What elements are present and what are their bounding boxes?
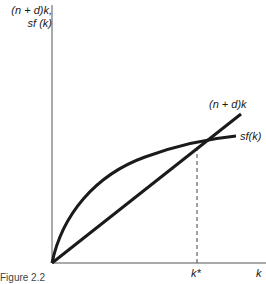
line-label: (n + d)k: [209, 98, 247, 110]
saving-curve: [52, 136, 236, 263]
break-even-investment-line: [52, 114, 241, 263]
x-axis-label: k: [256, 267, 262, 279]
y-axis-label-line1: (n + d)k,: [11, 4, 52, 16]
figure-caption: Figure 2.2: [0, 272, 45, 283]
steady-state-label: k*: [191, 267, 201, 279]
y-axis-label-line2: sf (k): [28, 17, 52, 29]
curve-label: sf(k): [240, 130, 261, 142]
